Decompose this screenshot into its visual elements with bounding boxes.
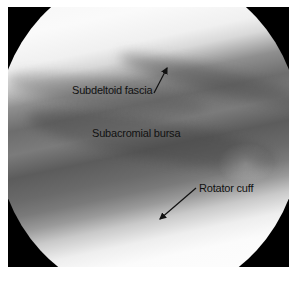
arrow-icon (160, 188, 196, 219)
annotation-arrows (0, 0, 297, 281)
arrow-icon (154, 68, 167, 93)
